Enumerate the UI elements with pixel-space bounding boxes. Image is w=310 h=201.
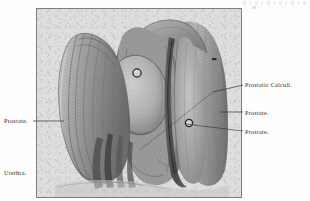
label-prostate-middle: Prostate. <box>245 110 269 116</box>
scan-speck-icon <box>252 6 256 9</box>
prostate-engraving <box>37 9 241 197</box>
label-prostate-lower: Prostate. <box>245 129 269 135</box>
illustration-plate <box>36 8 242 198</box>
label-prostatic-calculi: Prostatic Calculi. <box>245 82 292 88</box>
label-urethra: Urethra. <box>4 170 26 176</box>
reference-tick-icon <box>212 58 217 60</box>
scan-artifact-icon <box>243 1 309 5</box>
label-prostate-left: Prostate. <box>4 118 28 124</box>
page-canvas: Prostate. Urethra. Prostatic Calculi. Pr… <box>0 0 310 201</box>
